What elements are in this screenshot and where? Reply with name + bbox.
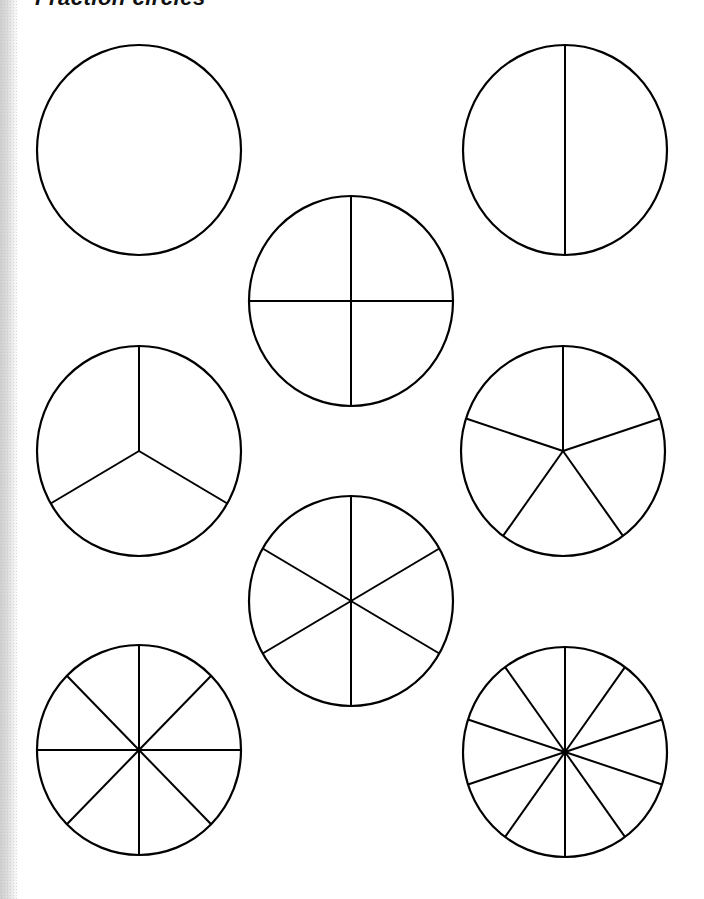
- division-line: [139, 676, 211, 750]
- fraction-circles-canvas: [0, 0, 704, 899]
- division-line: [468, 720, 565, 752]
- division-line: [139, 451, 227, 504]
- division-line: [565, 720, 662, 752]
- division-line: [351, 549, 439, 602]
- division-line: [263, 549, 351, 602]
- fraction-circle-eighths: [37, 645, 241, 855]
- division-line: [565, 667, 625, 752]
- division-line: [503, 451, 563, 536]
- circle-outline: [37, 45, 241, 255]
- division-line: [505, 667, 565, 752]
- division-line: [565, 752, 662, 784]
- division-line: [351, 601, 439, 654]
- fraction-circle-fifths: [461, 346, 665, 556]
- division-line: [67, 750, 139, 824]
- division-line: [565, 752, 625, 837]
- division-line: [505, 752, 565, 837]
- division-line: [51, 451, 139, 504]
- fraction-circle-halves: [463, 45, 667, 255]
- fraction-circle-fourths: [249, 196, 453, 406]
- division-line: [563, 419, 660, 451]
- fraction-circle-thirds: [37, 346, 241, 556]
- division-line: [466, 419, 563, 451]
- division-line: [139, 750, 211, 824]
- division-line: [563, 451, 623, 536]
- fraction-circle-whole: [37, 45, 241, 255]
- fraction-circle-sixths: [249, 496, 453, 706]
- division-line: [468, 752, 565, 784]
- division-line: [67, 676, 139, 750]
- division-line: [263, 601, 351, 654]
- fraction-circle-tenths: [463, 647, 667, 857]
